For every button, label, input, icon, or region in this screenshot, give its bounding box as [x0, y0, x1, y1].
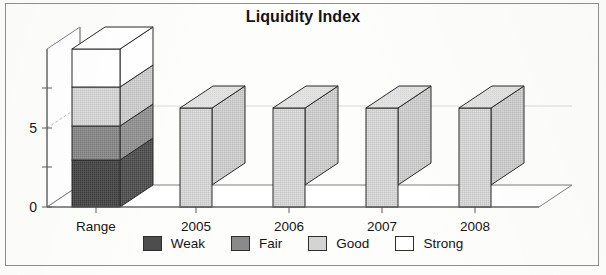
legend-swatch-good-icon [308, 236, 327, 251]
legend-item-fair[interactable]: Fair [231, 236, 282, 251]
bar-range-stacked[interactable] [72, 27, 153, 207]
bar-2007-front [366, 108, 398, 207]
x-label-2005: 2005 [181, 219, 211, 234]
legend-label-weak: Weak [171, 236, 205, 251]
y-tick-label-0: 0 [29, 199, 37, 215]
legend-item-strong[interactable]: Strong [395, 236, 463, 251]
segment-weak-front [72, 160, 120, 207]
bar-2006-front [273, 108, 305, 207]
chart-legend: Weak Fair Good Strong [0, 236, 606, 251]
legend-swatch-strong-icon [395, 236, 414, 251]
legend-swatch-weak-icon [143, 236, 162, 251]
bar-2008-front [459, 108, 491, 207]
legend-item-good[interactable]: Good [308, 236, 369, 251]
segment-strong-front [72, 49, 120, 87]
x-label-2006: 2006 [274, 219, 304, 234]
x-label-range: Range [76, 219, 116, 234]
x-label-2008: 2008 [460, 219, 490, 234]
legend-item-weak[interactable]: Weak [143, 236, 205, 251]
chart-screenshot: Liquidity Index [0, 0, 606, 275]
segment-fair-front [72, 126, 120, 160]
legend-label-strong: Strong [423, 236, 463, 251]
chart-plot-area: 0 5 [0, 0, 606, 275]
x-axis-ticks [96, 207, 475, 213]
x-label-2007: 2007 [367, 219, 397, 234]
segment-good-front [72, 87, 120, 126]
legend-label-fair: Fair [259, 236, 282, 251]
y-tick-label-5: 5 [29, 120, 37, 136]
legend-label-good: Good [336, 236, 369, 251]
bar-2005-front [180, 108, 212, 207]
legend-swatch-fair-icon [231, 236, 250, 251]
